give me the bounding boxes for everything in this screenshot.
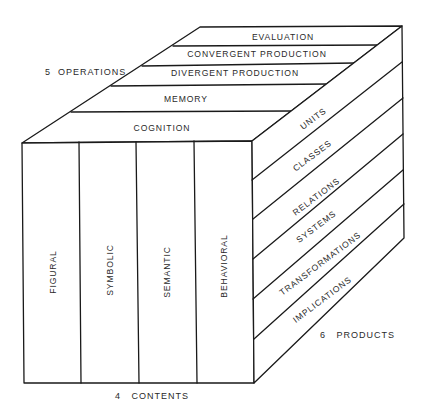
operation-label-evaluation: EVALUATION xyxy=(252,32,314,42)
structure-of-intellect-diagram: COGNITION MEMORY DIVERGENT PRODUCTION CO… xyxy=(0,0,425,418)
content-label-behavioral: BEHAVIORAL xyxy=(219,234,229,297)
axis-label-products: 6 PRODUCTS xyxy=(320,330,395,340)
axis-label-contents: 4 CONTENTS xyxy=(115,391,189,401)
operation-label-convergent-production: CONVERGENT PRODUCTION xyxy=(187,49,327,59)
cube-svg: COGNITION MEMORY DIVERGENT PRODUCTION CO… xyxy=(0,0,425,418)
operation-label-memory: MEMORY xyxy=(164,94,208,104)
content-label-semantic: SEMANTIC xyxy=(162,246,172,298)
axis-label-operations: 5 OPERATIONS xyxy=(45,67,126,77)
front-face-contents: FIGURAL SYMBOLIC SEMANTIC BEHAVIORAL xyxy=(22,141,254,383)
operation-label-divergent-production: DIVERGENT PRODUCTION xyxy=(171,68,299,78)
operation-label-cognition: COGNITION xyxy=(134,123,191,133)
content-label-symbolic: SYMBOLIC xyxy=(105,244,115,296)
content-label-figural: FIGURAL xyxy=(48,250,58,294)
